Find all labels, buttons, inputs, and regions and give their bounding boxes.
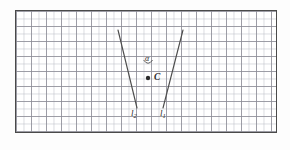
- line-label-l1: l1: [160, 109, 166, 118]
- point-label-c: C: [154, 73, 160, 83]
- graph-paper-frame: [15, 10, 277, 133]
- line-label-l2: l2: [131, 109, 137, 118]
- grid-lines: [16, 11, 276, 132]
- geometry-figure: α C l2 l1: [0, 0, 290, 150]
- line-label-l1-subscript: 1: [163, 112, 166, 119]
- angle-label-alpha: α: [145, 55, 149, 63]
- line-label-l2-subscript: 2: [134, 112, 137, 119]
